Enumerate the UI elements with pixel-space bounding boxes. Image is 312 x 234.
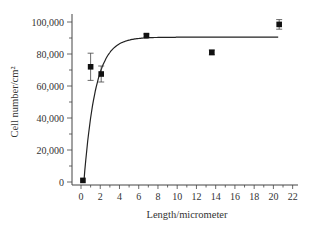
x-axis-label: Length/micrometer bbox=[146, 209, 228, 220]
x-tick-label: 16 bbox=[230, 191, 240, 202]
y-tick-label: 20,000 bbox=[37, 145, 65, 156]
data-point bbox=[80, 178, 86, 184]
fit-curve bbox=[84, 37, 278, 182]
data-point bbox=[88, 64, 94, 70]
y-tick-label: 60,000 bbox=[37, 81, 65, 92]
y-tick-label: 80,000 bbox=[37, 49, 65, 60]
x-tick-label: 20 bbox=[268, 191, 278, 202]
y-tick-label: 40,000 bbox=[37, 113, 65, 124]
data-point bbox=[209, 50, 215, 56]
data-point bbox=[276, 22, 282, 28]
x-tick-label: 8 bbox=[155, 191, 160, 202]
chart: 0246810121416182022020,00040,00060,00080… bbox=[0, 0, 312, 234]
data-point bbox=[98, 71, 104, 77]
plot-area: 0246810121416182022020,00040,00060,00080… bbox=[32, 14, 299, 202]
x-tick-label: 4 bbox=[117, 191, 122, 202]
x-tick-label: 2 bbox=[98, 191, 103, 202]
x-tick-label: 22 bbox=[288, 191, 298, 202]
data-point bbox=[144, 33, 150, 39]
x-tick-label: 18 bbox=[249, 191, 259, 202]
y-axis-label: Cell number/cm² bbox=[9, 66, 20, 137]
x-tick-label: 10 bbox=[172, 191, 182, 202]
y-tick-label: 100,000 bbox=[32, 17, 65, 28]
x-tick-label: 14 bbox=[211, 191, 221, 202]
x-tick-label: 0 bbox=[79, 191, 84, 202]
y-tick-label: 0 bbox=[59, 177, 64, 188]
x-tick-label: 6 bbox=[136, 191, 141, 202]
x-tick-label: 12 bbox=[191, 191, 201, 202]
